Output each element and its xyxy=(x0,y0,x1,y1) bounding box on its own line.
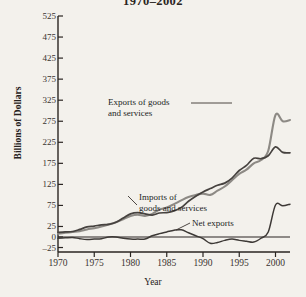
leader-line-net xyxy=(176,223,190,230)
line-imports xyxy=(58,114,290,234)
plot-area xyxy=(0,0,306,297)
annotation-exports: Exports of goods and services xyxy=(108,97,170,118)
x-axis-title: Year xyxy=(0,277,306,287)
annotation-net-exports: Net exports xyxy=(192,218,234,229)
line-exports xyxy=(58,147,290,232)
leader-line-imports xyxy=(128,196,137,205)
annotation-imports: Imports of goods and services xyxy=(139,192,207,213)
chart-figure: 1970–2002 Billions of Dollars 5254754253… xyxy=(0,0,306,297)
